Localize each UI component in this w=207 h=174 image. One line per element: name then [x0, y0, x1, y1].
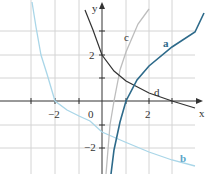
origin-label: 0 — [88, 108, 94, 120]
curve-label-a: a — [163, 37, 169, 49]
x-tick-2: 2 — [145, 108, 151, 120]
x-tick-neg2: −2 — [48, 108, 60, 120]
curve-label-b: b — [180, 152, 186, 164]
function-graph: y x 2 −2 −2 2 0 a b c d — [0, 0, 207, 174]
curve-label-d: d — [154, 86, 160, 98]
y-tick-neg2: −2 — [84, 141, 96, 153]
curve-label-c: c — [124, 31, 129, 43]
x-axis-label: x — [199, 107, 205, 119]
y-tick-2: 2 — [89, 49, 95, 61]
curve-b — [32, 2, 195, 166]
grid — [0, 0, 195, 174]
x-arrow-icon — [196, 98, 203, 104]
y-axis-label: y — [92, 2, 98, 14]
y-arrow-icon — [99, 2, 105, 9]
